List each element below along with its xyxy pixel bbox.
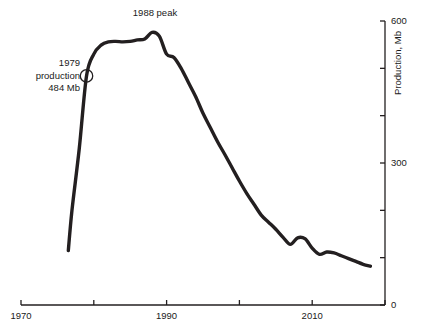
annotation-1979-line1: 1979 [59, 57, 80, 68]
x-axis-tick-label: 2010 [282, 310, 342, 321]
annotation-1979-line3: 484 Mb [48, 82, 80, 93]
x-axis-tick-label: 1970 [0, 310, 51, 321]
annotation-1988-peak: 1988 peak [110, 7, 200, 20]
y-axis-tick-label: 300 [391, 157, 407, 168]
y-axis-tick-label: 0 [391, 299, 396, 310]
x-axis-tick-label: 1990 [137, 310, 197, 321]
annotation-1979-line2: production [36, 70, 80, 81]
production-line-chart: 1979production484 Mb 1988 peak Productio… [0, 0, 441, 327]
production-line-series [68, 32, 370, 266]
chart-plot-area [0, 0, 441, 327]
annotation-1979-production: 1979production484 Mb [12, 57, 80, 95]
y-axis-tick-label: 600 [391, 15, 407, 26]
annotation-peak-text: 1988 peak [133, 7, 177, 18]
